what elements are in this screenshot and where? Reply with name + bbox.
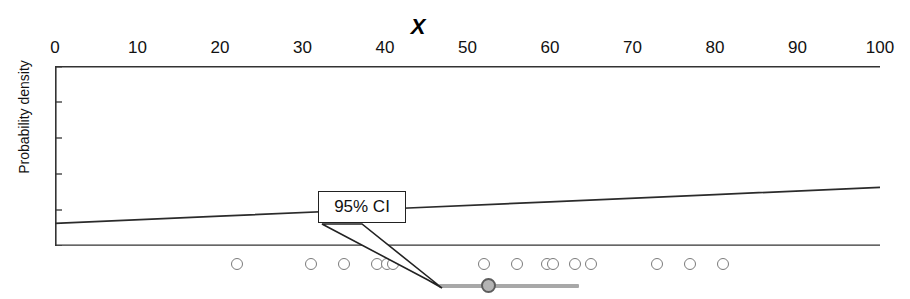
data-point xyxy=(305,258,317,270)
x-tick-label: 70 xyxy=(603,38,663,58)
plot-area xyxy=(55,66,880,246)
data-point xyxy=(478,258,490,270)
chart-figure: X 0102030405060708090100 Probability den… xyxy=(0,0,910,299)
data-point xyxy=(547,258,559,270)
data-point xyxy=(511,258,523,270)
x-tick-label: 90 xyxy=(768,38,828,58)
density-curve xyxy=(55,187,880,223)
x-axis xyxy=(55,66,880,67)
x-axis-tick-labels: 0102030405060708090100 xyxy=(0,38,910,60)
ci-callout-label: 95% CI xyxy=(334,197,390,217)
ci-callout-box: 95% CI xyxy=(318,191,406,223)
x-tick-label: 100 xyxy=(850,38,910,58)
x-tick-label: 30 xyxy=(273,38,333,58)
y-axis-ticks xyxy=(56,67,62,246)
data-point xyxy=(387,258,399,270)
data-point xyxy=(569,258,581,270)
x-tick-label: 50 xyxy=(438,38,498,58)
data-point xyxy=(231,258,243,270)
x-tick-label: 60 xyxy=(520,38,580,58)
axes-and-curve xyxy=(55,66,880,246)
y-axis xyxy=(56,66,62,246)
x-tick-label: 40 xyxy=(355,38,415,58)
x-tick-label: 20 xyxy=(190,38,250,58)
data-point-strip xyxy=(55,258,880,280)
data-point xyxy=(684,258,696,270)
x-tick-label: 10 xyxy=(108,38,168,58)
y-axis-label: Probability density xyxy=(16,17,32,217)
data-point xyxy=(651,258,663,270)
data-point xyxy=(585,258,597,270)
confidence-interval-group xyxy=(55,278,880,299)
data-point xyxy=(717,258,729,270)
confidence-interval-bar xyxy=(439,284,579,288)
data-point xyxy=(338,258,350,270)
x-tick-label: 80 xyxy=(685,38,745,58)
confidence-interval-center-marker xyxy=(481,278,496,293)
chart-title: X xyxy=(398,14,438,40)
y-axis-label-wrapper: Probability density xyxy=(16,17,40,217)
